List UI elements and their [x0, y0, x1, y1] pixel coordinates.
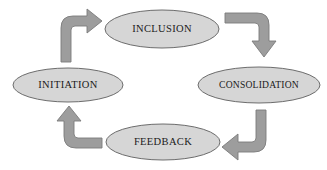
cycle-diagram: INCLUSION CONSOLIDATION FEEDBACK INITIAT… [0, 0, 327, 170]
node-feedback-label: FEEDBACK [134, 136, 192, 147]
node-inclusion-label: INCLUSION [132, 23, 192, 34]
arrow-inclusion-to-consolidation [225, 13, 276, 57]
cycle-diagram-canvas: INCLUSION CONSOLIDATION FEEDBACK INITIAT… [0, 0, 327, 170]
arrow-consolidation-to-feedback [222, 110, 266, 160]
arrow-consolidation-to-feedback-shape [222, 110, 266, 160]
node-initiation[interactable]: INITIATION [13, 68, 123, 102]
node-inclusion[interactable]: INCLUSION [105, 10, 219, 48]
node-consolidation-label: CONSOLIDATION [219, 79, 299, 90]
arrow-initiation-to-inclusion [61, 9, 102, 62]
arrow-initiation-to-inclusion-shape [61, 9, 102, 62]
node-initiation-label: INITIATION [38, 79, 98, 90]
node-consolidation[interactable]: CONSOLIDATION [198, 67, 320, 103]
node-feedback[interactable]: FEEDBACK [106, 124, 220, 160]
arrow-feedback-to-initiation [57, 106, 102, 148]
arrow-feedback-to-initiation-shape [57, 106, 102, 148]
arrow-inclusion-to-consolidation-shape [225, 13, 276, 57]
